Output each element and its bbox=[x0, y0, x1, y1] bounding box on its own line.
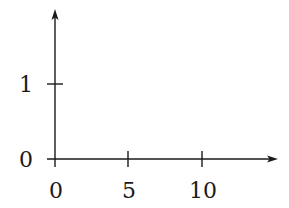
coordinate-axes-chart: 1 0 0 5 10 bbox=[0, 0, 289, 208]
x-tick-label-5: 5 bbox=[122, 180, 136, 202]
x-tick-label-0: 0 bbox=[49, 180, 63, 202]
y-tick-label-1: 1 bbox=[19, 74, 33, 96]
x-tick-label-10: 10 bbox=[189, 180, 217, 202]
y-tick-label-0: 0 bbox=[19, 149, 33, 171]
axes-svg bbox=[0, 0, 289, 208]
